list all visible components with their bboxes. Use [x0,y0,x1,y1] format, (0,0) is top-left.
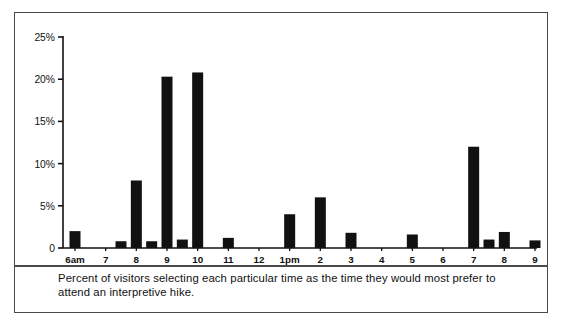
bar [499,232,510,248]
chart-plot-area: 05%10%15%20%25% 6am7891011121pm23456789 [15,13,549,265]
bar [192,72,203,248]
bar [177,240,188,248]
figure-caption: Percent of visitors selecting each parti… [58,271,528,299]
y-axis-tick-label: 10% [34,159,55,170]
x-axis-tick-label: 7 [103,254,109,265]
bar [530,240,541,248]
figure-container: 05%10%15%20%25% 6am7891011121pm23456789 … [14,12,548,313]
bar [346,233,357,248]
bar [162,77,173,248]
x-axis-tick-label: 4 [379,254,385,265]
x-axis: 6am7891011121pm23456789 [63,248,538,265]
x-axis-tick-label: 8 [502,254,508,265]
y-axis: 05%10%15%20%25% [34,32,63,254]
y-axis-tick-label: 15% [34,116,55,127]
bar [70,231,81,248]
x-axis-tick-label: 6am [65,254,85,265]
x-axis-tick-label: 7 [471,254,477,265]
x-axis-tick-label: 9 [164,254,170,265]
y-axis-tick-label: 0 [49,243,55,254]
x-axis-tick-label: 11 [223,254,234,265]
bar [407,234,418,248]
bar [116,241,127,248]
bar [223,238,234,248]
bar [468,147,479,248]
bar [146,241,157,248]
y-axis-tick-label: 25% [34,32,55,43]
x-axis-tick-label: 8 [134,254,140,265]
bar [284,214,295,248]
x-axis-tick-label: 6 [440,254,446,265]
x-axis-tick-label: 5 [410,254,416,265]
x-axis-tick-label: 12 [254,254,265,265]
y-axis-tick-label: 20% [34,74,55,85]
x-axis-tick-label: 3 [348,254,354,265]
x-axis-tick-label: 9 [532,254,538,265]
bar [484,240,495,248]
bar [131,180,142,248]
bar-series [70,72,541,248]
caption-divider [15,265,547,267]
x-axis-tick-label: 2 [318,254,324,265]
x-axis-tick-label: 1pm [280,254,300,265]
bar-chart-svg: 05%10%15%20%25% 6am7891011121pm23456789 [15,13,549,265]
bar [315,197,326,248]
y-axis-tick-label: 5% [40,201,55,212]
x-axis-tick-label: 10 [192,254,203,265]
